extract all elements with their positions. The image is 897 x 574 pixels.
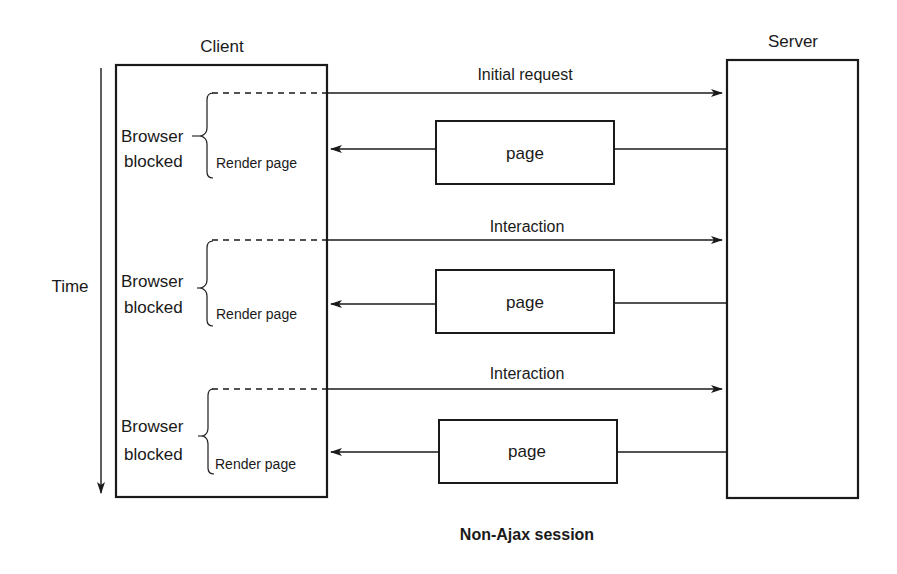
curly-brace-icon	[201, 241, 213, 326]
server-label: Server	[768, 32, 818, 51]
request-label: Interaction	[490, 218, 565, 235]
time-label: Time	[51, 277, 88, 296]
response-label: page	[506, 293, 544, 312]
browser-blocked-line2: blocked	[124, 298, 183, 317]
request-label: Initial request	[477, 66, 573, 83]
response-label: page	[508, 442, 546, 461]
exchange-1: Initial request page Browser blocked Ren…	[121, 66, 727, 184]
client-label: Client	[200, 37, 244, 56]
non-ajax-session-diagram: Client Server Time Initial request page …	[0, 0, 897, 574]
browser-blocked-line2: blocked	[124, 445, 183, 464]
curly-brace-icon	[203, 389, 214, 474]
browser-blocked-line1: Browser	[121, 272, 184, 291]
exchange-3: Interaction page Browser blocked Render …	[121, 365, 727, 483]
browser-blocked-line2: blocked	[124, 152, 183, 171]
render-page-label: Render page	[216, 306, 297, 322]
render-page-label: Render page	[216, 155, 297, 171]
server-box	[727, 60, 858, 498]
browser-blocked-line1: Browser	[121, 417, 184, 436]
render-page-label: Render page	[215, 456, 296, 472]
exchange-2: Interaction page Browser blocked Render …	[121, 218, 727, 333]
response-label: page	[506, 144, 544, 163]
diagram-caption: Non-Ajax session	[460, 526, 594, 543]
curly-brace-icon	[201, 93, 213, 178]
request-label: Interaction	[490, 365, 565, 382]
browser-blocked-line1: Browser	[121, 127, 184, 146]
